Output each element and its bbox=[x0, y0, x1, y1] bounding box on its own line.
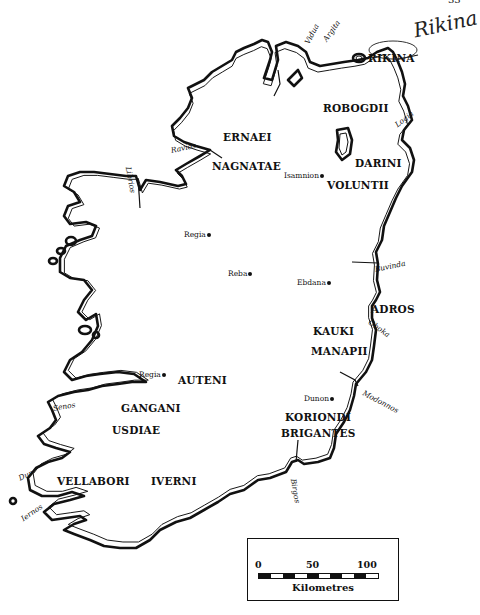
town-dot-icon bbox=[327, 281, 331, 285]
town-label: Isamnion bbox=[284, 171, 319, 180]
town-label: Dunon bbox=[304, 394, 329, 403]
tribe-label-vellabori: VELLABORI bbox=[57, 476, 130, 487]
page-number: 33 bbox=[448, 0, 461, 5]
town-dot-icon bbox=[320, 174, 324, 178]
town-dot-icon bbox=[162, 373, 166, 377]
tribe-label-robogdii: ROBOGDII bbox=[323, 103, 389, 114]
tribe-label-auteni: AUTENI bbox=[178, 375, 227, 386]
tribe-label-manapii: MANAPII bbox=[311, 346, 368, 357]
scale-unit-label: Kilometres bbox=[248, 582, 398, 593]
town-regia-south: Regia bbox=[139, 371, 166, 379]
town-label: Regia bbox=[139, 370, 161, 379]
scale-tick-label: 100 bbox=[357, 559, 377, 570]
town-dunon: Dunon bbox=[304, 395, 334, 403]
town-dot-icon bbox=[207, 233, 211, 237]
west-islands bbox=[10, 237, 99, 504]
tribe-label-kauki: KAUKI bbox=[313, 326, 354, 337]
coastline bbox=[28, 40, 414, 548]
tribe-label-nagnatae: NAGNATAE bbox=[212, 161, 281, 172]
town-dot-icon bbox=[330, 397, 334, 401]
tribe-label-rikina: RIKINA bbox=[368, 53, 415, 64]
town-isamnion: Isamnion bbox=[284, 172, 324, 180]
town-label: Reba bbox=[228, 269, 247, 278]
scale-bar bbox=[258, 573, 379, 579]
town-reba: Reba bbox=[228, 270, 252, 278]
tribe-label-koriondi: KORIONDI bbox=[285, 412, 351, 423]
scale-tick-label: 0 bbox=[255, 559, 262, 570]
town-label: Regia bbox=[184, 230, 206, 239]
scale-bar-box: 050100 Kilometres bbox=[247, 538, 399, 601]
town-ebdana: Ebdana bbox=[297, 279, 331, 287]
scale-tick-label: 50 bbox=[306, 559, 319, 570]
lough-neagh bbox=[336, 128, 352, 160]
tribe-label-usdiae: USDIAE bbox=[112, 425, 160, 436]
town-dot-icon bbox=[248, 272, 252, 276]
tribe-label-iverni: IVERNI bbox=[151, 476, 197, 487]
town-regia-north: Regia bbox=[184, 231, 211, 239]
town-label: Ebdana bbox=[297, 278, 326, 287]
tribe-label-brigantes: BRIGANTES bbox=[281, 428, 355, 439]
tribe-label-ernaei: ERNAEI bbox=[223, 132, 272, 143]
tribe-label-darini: DARINI bbox=[355, 158, 402, 169]
lough-foyle bbox=[288, 70, 302, 86]
tribe-label-gangani: GANGANI bbox=[121, 403, 181, 414]
tribe-label-voluntii: VOLUNTII bbox=[327, 180, 389, 191]
tribe-label-adros: ADROS bbox=[371, 304, 415, 315]
